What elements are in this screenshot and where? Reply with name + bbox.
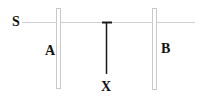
label-b: B <box>161 42 170 56</box>
plate-a <box>57 9 61 89</box>
plate-b <box>153 9 157 90</box>
physics-diagram: S A B X <box>0 0 207 96</box>
label-s: S <box>12 15 20 29</box>
label-a: A <box>45 44 55 58</box>
label-x: X <box>101 80 111 94</box>
